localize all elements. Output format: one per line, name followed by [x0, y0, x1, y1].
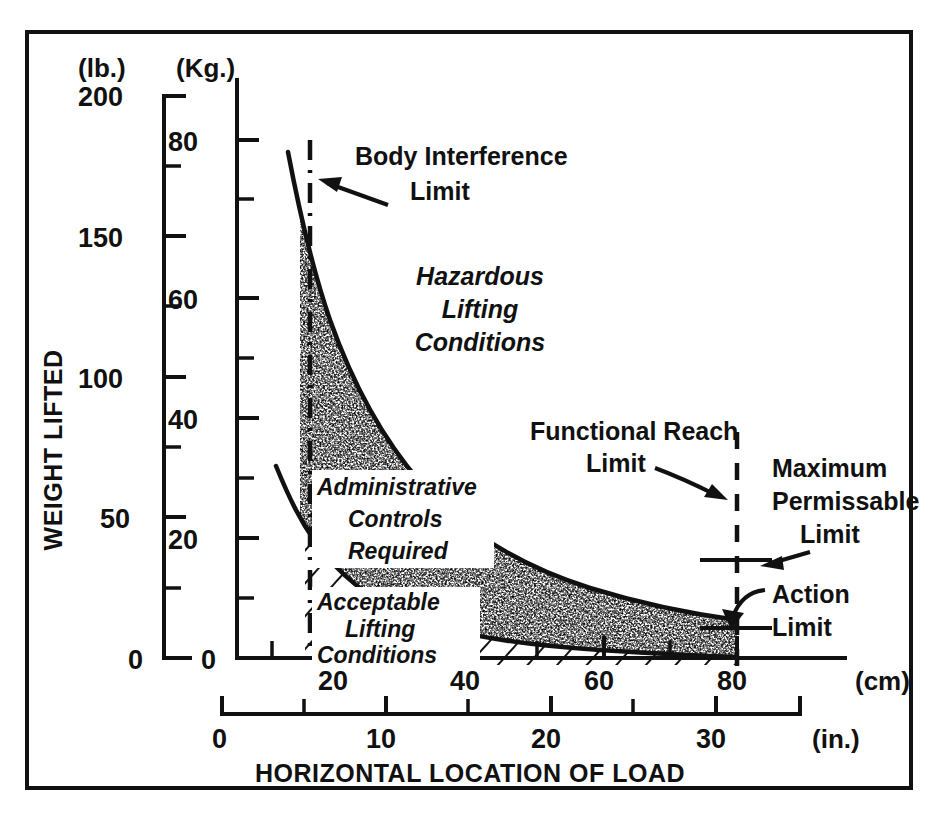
hazardous-line2: Lifting [442, 295, 518, 323]
x-axis-title: HORIZONTAL LOCATION OF LOAD [255, 759, 685, 787]
y-tick-kg-0: 0 [201, 645, 216, 675]
functional-reach-line2: Limit [586, 449, 646, 477]
max-permissable-line3: Limit [800, 520, 860, 548]
administrative-line1: Administrative [316, 474, 477, 500]
max-permissable-line1: Maximum [772, 454, 887, 482]
region-label-acceptable: Acceptable Lifting Conditions [312, 587, 480, 668]
max-permissable-line2: Permissable [772, 487, 919, 515]
administrative-line3: Required [348, 538, 449, 564]
x-tick-cm-80: 80 [717, 666, 747, 696]
x-axis-in: 0 10 20 30 (in.) [212, 696, 860, 754]
x-tick-in-0: 0 [212, 724, 227, 754]
y-tick-lb-0: 0 [128, 645, 143, 675]
y-axis-kg: (Kg.) 80 60 40 20 0 [168, 53, 265, 675]
figure-container: (lb.) 200 150 100 50 0 (Kg.) 80 60 40 20… [0, 0, 935, 820]
x-axis-cm-unit: (cm) [855, 666, 910, 696]
y-axis-lb-unit: (lb.) [78, 53, 126, 83]
y-tick-lb-50: 50 [100, 504, 130, 534]
lifting-guide-chart: (lb.) 200 150 100 50 0 (Kg.) 80 60 40 20… [0, 0, 935, 820]
y-tick-kg-60: 60 [168, 285, 198, 315]
annotation-maximum-permissable-limit: Maximum Permissable Limit [760, 454, 919, 570]
y-axis-kg-unit: (Kg.) [176, 53, 235, 83]
x-tick-cm-40: 40 [450, 666, 480, 696]
y-tick-lb-150: 150 [78, 223, 123, 253]
y-tick-kg-40: 40 [168, 405, 198, 435]
x-tick-in-10: 10 [366, 724, 396, 754]
body-interference-line2: Limit [410, 177, 470, 205]
action-limit-line1: Action [772, 580, 850, 608]
y-tick-kg-20: 20 [168, 525, 198, 555]
y-tick-lb-100: 100 [78, 364, 123, 394]
acceptable-line2: Lifting [345, 616, 415, 642]
x-tick-cm-20: 20 [318, 666, 348, 696]
administrative-line2: Controls [348, 506, 443, 532]
functional-reach-line1: Functional Reach [530, 417, 738, 445]
action-limit-line2: Limit [772, 613, 832, 641]
body-interference-line1: Body Interference [355, 142, 568, 170]
hazardous-line3: Conditions [415, 328, 546, 356]
acceptable-line3: Conditions [317, 642, 437, 668]
y-tick-kg-80: 80 [168, 127, 198, 157]
x-tick-in-20: 20 [531, 724, 561, 754]
acceptable-line1: Acceptable [316, 589, 440, 615]
hazardous-line1: Hazardous [416, 262, 544, 290]
x-tick-cm-60: 60 [584, 666, 614, 696]
x-axis-in-unit: (in.) [812, 724, 860, 754]
region-label-administrative-controls: Administrative Controls Required [312, 470, 494, 568]
y-tick-lb-200: 200 [78, 82, 123, 112]
y-axis-title: WEIGHT LIFTED [39, 350, 67, 551]
x-tick-in-30: 30 [696, 724, 726, 754]
